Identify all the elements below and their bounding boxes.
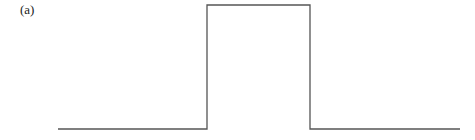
pulse-waveform [58, 5, 460, 129]
rectangular-pulse-diagram [0, 0, 475, 140]
